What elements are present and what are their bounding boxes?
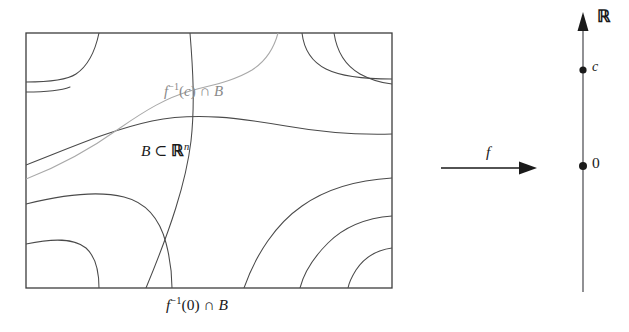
real-line-label: ℝ [597, 8, 610, 25]
domain-set-space: ℝ [171, 142, 184, 159]
function-arrow-label: f [486, 144, 490, 160]
axis-point-zero-dot [579, 162, 587, 170]
axis-point-zero-label: 0 [592, 155, 600, 171]
domain-set-label: B ⊂ ℝn [141, 142, 189, 159]
axis-point-c-label: c [592, 60, 598, 74]
real-line-axis-arrowhead [578, 12, 589, 31]
axis-point-c-dot [579, 66, 586, 73]
preimage-zero-intersection: ∩ [203, 296, 214, 313]
preimage-c-intersection: ∩ [199, 83, 210, 99]
preimage-zero-label: f−1(0) ∩ B [166, 296, 228, 313]
preimage-c-argument-value: c [184, 83, 191, 99]
figure-canvas [0, 0, 629, 332]
preimage-zero-argument: (0) [182, 296, 200, 313]
preimage-c-label: f−1(c) ∩ B [164, 82, 223, 99]
preimage-c-set: B [214, 83, 223, 99]
domain-set-exponent: n [184, 141, 189, 152]
preimage-c-exponent: −1 [168, 81, 179, 92]
function-arrow-group [441, 162, 537, 175]
preimage-zero-set: B [219, 296, 228, 313]
level-set-figure: f−1(c) ∩ B B ⊂ ℝn f−1(0) ∩ B f ℝ c 0 [0, 0, 629, 332]
domain-set-relation: ⊂ [154, 142, 167, 159]
domain-box-group [26, 33, 392, 288]
domain-box-border [26, 33, 392, 288]
function-arrow-head [519, 162, 537, 175]
real-line-axis-group [578, 12, 589, 292]
preimage-zero-exponent: −1 [170, 295, 181, 306]
preimage-c-argument: (c) [179, 83, 196, 99]
